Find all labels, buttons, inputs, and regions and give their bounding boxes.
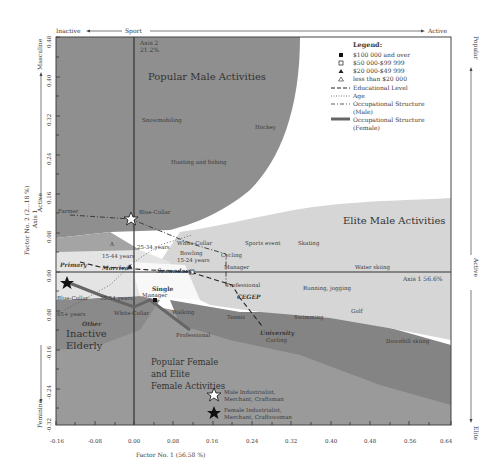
point-label-professional-m: Professional	[226, 282, 260, 288]
right-label-active: Active	[473, 258, 480, 277]
label-other: Other	[82, 320, 101, 327]
legend-item: (Male)	[353, 108, 373, 115]
legend-item: Occupational Structure	[353, 116, 424, 123]
legend-item: less than $20 000	[353, 75, 407, 82]
point-label-single: Single	[152, 285, 173, 292]
region-label-inactive: Inactive	[66, 328, 107, 339]
x-tick: 0.24	[246, 438, 258, 444]
legend-item: Occupational Structure	[353, 100, 424, 107]
star-legend-female-1: Female Industrialist,	[224, 407, 282, 413]
point-label-age-2534: 25-34 years	[137, 244, 170, 250]
y-tick: -0.16	[46, 346, 52, 360]
activity-label: Swimming	[294, 314, 324, 320]
activity-label: Sports event	[245, 240, 280, 246]
y-tick: 0.08	[46, 309, 52, 321]
axis2-label: Axis 2	[140, 39, 158, 46]
x-tick: 0.64	[440, 438, 452, 444]
activity-label: Curling	[266, 337, 287, 343]
activity-label: Water skiing	[355, 264, 390, 270]
activity-label: Golf	[351, 308, 363, 314]
right-label-popular: Popular	[473, 36, 480, 59]
legend-item: $50 000-$99 999	[353, 59, 405, 66]
x-tick: 0.32	[285, 438, 297, 444]
region-label-female-1: Popular Female	[151, 357, 218, 367]
x-tick: 0.08	[167, 438, 179, 444]
star-legend-female-2: Merchant, Craftswoman	[224, 414, 292, 420]
axis1-label: Axis 1 56.6%	[403, 275, 442, 282]
top-label-active: Active	[428, 27, 447, 34]
legend-item: Age	[353, 92, 365, 99]
point-label-age-65: 65+ years	[57, 311, 85, 317]
point-label-secondary: Secondary	[157, 267, 192, 274]
axis2-pct: 21.2%	[140, 46, 159, 53]
point-label-manager-f: Manager	[142, 292, 167, 298]
point-label-white-collar-m: White-Collar	[177, 240, 212, 246]
activity-label: Downhill skiing	[386, 338, 429, 344]
activity-label: Running, jogging	[303, 285, 351, 291]
point-label-blue-collar-f: Blue-Collar	[57, 295, 88, 301]
y-tick: 0.40	[46, 75, 52, 87]
point-label-professional-f: Professional	[176, 332, 210, 338]
legend-title: Legend:	[353, 41, 382, 49]
x-tick: 0.56	[404, 438, 416, 444]
y-tick: -0.24	[46, 385, 52, 399]
point-label-married: Married	[102, 264, 129, 271]
activity-label: Tennis	[227, 314, 245, 320]
y-axis-sub: Axis 1	[31, 210, 38, 228]
region-label-popular-male: Popular Male Activities	[148, 71, 266, 82]
x-tick: 0.40	[325, 438, 337, 444]
left-label-feminine: Feminine	[36, 400, 43, 428]
legend-item: $100 000 and over	[353, 51, 410, 58]
y-tick: 0.16	[46, 192, 52, 204]
activity-label: Hockey	[255, 124, 276, 130]
x-tick: 0.16	[206, 438, 218, 444]
y-axis-title: Factor No. 2 (2...18 %)	[23, 186, 30, 255]
point-label-age-1544: 15-44 years	[102, 253, 135, 259]
legend-item: (Female)	[353, 124, 380, 131]
star-legend-male-2: Merchant, Craftsman	[224, 396, 284, 402]
y-tick: -0.32	[46, 418, 52, 432]
y-tick: 0.08	[46, 231, 52, 243]
top-label-sport: Sport	[125, 27, 142, 34]
activity-label: Hunting and fishing	[171, 159, 227, 165]
region-label-female-2: and Elite	[151, 369, 190, 379]
activity-label: Skating	[298, 240, 319, 246]
point-label-blue-collar-m: Blue-Collar	[139, 209, 170, 215]
left-label-masculine: Masculine	[36, 39, 43, 70]
point-label-age-1524: 15-24 years	[177, 257, 210, 263]
activity-label: Bowling	[180, 250, 203, 256]
legend-item: Educational Level	[353, 84, 408, 91]
point-label-manager-m: Manager	[224, 264, 249, 270]
region-label-elderly: Elderly	[66, 340, 102, 351]
point-label-age-3554: 35-54 years	[100, 295, 133, 301]
region-label-elite-male: Elite Male Activities	[343, 215, 445, 226]
x-tick: 0.48	[364, 438, 376, 444]
activity-label: Walking	[172, 309, 194, 315]
activity-label: Snowmobiling	[142, 117, 182, 123]
x-tick: 0.00	[128, 438, 140, 444]
y-tick: 0.24	[46, 153, 52, 165]
star-legend-male-1: Male Industrialist,	[224, 389, 275, 395]
point-label-primary: Primary	[60, 261, 87, 268]
top-label-inactive: Inactive	[56, 27, 80, 34]
y-tick: 0.32	[46, 114, 52, 126]
region-label-female-3: Female Activities	[151, 381, 225, 391]
x-axis-title: Factor No. 1 (56.58 %)	[136, 451, 205, 458]
legend-item: $20 000-$49 999	[353, 67, 405, 74]
point-label-a: A	[110, 241, 114, 247]
point-label-university: University	[260, 329, 294, 336]
y-tick: 0.00	[46, 270, 52, 282]
y-tick: 0.48	[46, 36, 52, 48]
point-label-white-collar-f: White-Collar	[114, 310, 149, 316]
point-label-cegep: CEGEP	[237, 293, 261, 300]
right-label-elite: Elite	[473, 426, 480, 440]
x-tick: -0.08	[88, 438, 102, 444]
point-label-farmer: Farmer	[58, 208, 78, 214]
x-tick: -0.16	[50, 438, 64, 444]
activity-label: Cycling	[221, 252, 242, 258]
